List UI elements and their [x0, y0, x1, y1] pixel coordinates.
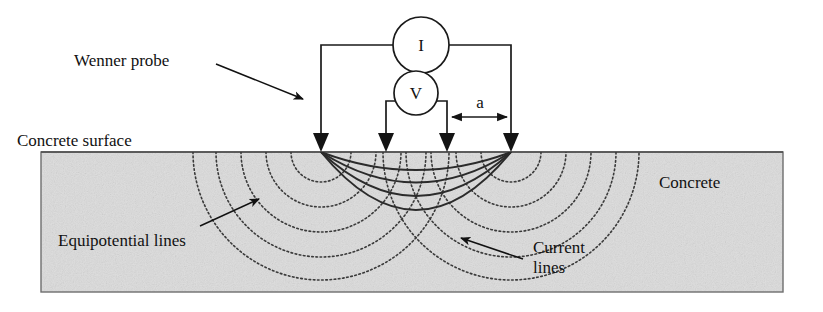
diagram-canvas: I V a Wenner probe Concrete surface	[0, 0, 823, 312]
current-lines-label-line2: lines	[533, 258, 565, 277]
probe-arrow-icon	[378, 133, 394, 152]
probe-spacing-dimension: a	[452, 93, 507, 117]
voltage-meter-label: V	[410, 84, 423, 103]
wenner-probe-callout: Wenner probe	[74, 51, 303, 99]
probe-arrow-icon	[439, 133, 455, 152]
probe-tips-group	[313, 133, 519, 152]
wenner-probe-diagram: I V a Wenner probe Concrete surface	[0, 0, 823, 312]
concrete-label: Concrete	[659, 173, 720, 192]
current-lines-label-line1: Current	[533, 238, 585, 257]
equipotential-lines-label: Equipotential lines	[58, 231, 186, 250]
probe-arrow-icon	[313, 133, 329, 152]
leader-arrow-icon	[216, 64, 303, 99]
concrete-surface-label: Concrete surface	[17, 131, 132, 150]
current-meter-left-wire	[321, 45, 393, 147]
voltage-meter-circuit: V	[386, 71, 447, 147]
wenner-probe-label: Wenner probe	[74, 51, 169, 70]
spacing-label: a	[476, 93, 484, 112]
probe-arrow-icon	[503, 133, 519, 152]
current-meter-label: I	[418, 36, 424, 55]
